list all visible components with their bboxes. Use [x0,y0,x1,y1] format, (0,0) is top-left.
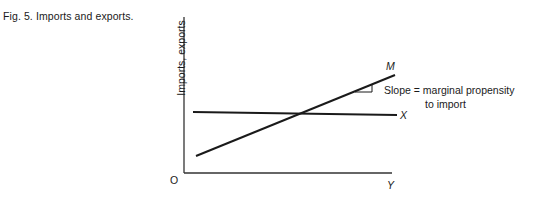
origin-label: O [170,174,178,186]
y-axis-label: Imports, exports [175,20,187,95]
slope-annotation-line2: to import [425,98,466,110]
exports-line-label: X [400,109,407,121]
imports-line-label: M [386,60,395,72]
slope-annotation-line1: Slope = marginal propensity [384,84,514,96]
exports-line [193,112,397,115]
x-axis-label: Y [387,179,394,191]
